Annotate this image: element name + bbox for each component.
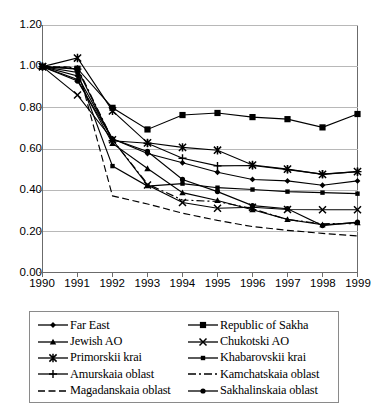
legend-item[interactable]: Sakhalinskaia oblast xyxy=(186,383,334,399)
asterisk-marker-icon xyxy=(36,351,70,365)
legend-item[interactable]: Magadanskaia oblast xyxy=(36,383,186,399)
plus-marker-icon xyxy=(36,367,70,381)
legend-label: Kamchatskaia oblast xyxy=(220,367,319,382)
legend-item[interactable]: Amurskaia oblast xyxy=(36,366,186,382)
legend-item[interactable]: Primorskii krai xyxy=(36,350,186,366)
dot-marker-icon xyxy=(186,351,220,365)
legend-label: Amurskaia oblast xyxy=(70,367,154,382)
series-far-east xyxy=(40,64,361,188)
chart-canvas xyxy=(0,0,369,300)
triangle-marker-icon xyxy=(36,335,70,349)
legend-item[interactable]: Chukotski AO xyxy=(186,333,334,349)
legend-label: Jewish AO xyxy=(70,334,122,349)
legend-item[interactable]: Far East xyxy=(36,317,186,333)
series-sakhalinskaia-oblast xyxy=(40,64,360,228)
series-magadanskaia-oblast xyxy=(43,67,358,236)
axis-ticks xyxy=(39,26,358,277)
legend-label: Far East xyxy=(70,318,109,333)
dashdot-line-icon xyxy=(186,367,220,381)
legend-label: Khabarovskii krai xyxy=(220,350,306,365)
legend-label: Sakhalinskaia oblast xyxy=(220,383,318,398)
series-chukotski-ao xyxy=(39,63,361,213)
legend-item[interactable]: Jewish AO xyxy=(36,333,186,349)
series-khabarovskii-krai xyxy=(40,64,359,195)
legend-label: Primorskii krai xyxy=(70,350,142,365)
legend-label: Magadanskaia oblast xyxy=(70,383,171,398)
legend-item[interactable]: Republic of Sakha xyxy=(186,317,334,333)
circle-marker-icon xyxy=(186,384,220,398)
series-primorskii-krai xyxy=(39,54,361,179)
series-jewish-ao xyxy=(39,63,360,227)
legend-item[interactable]: Kamchatskaia oblast xyxy=(186,366,334,382)
diamond-marker-icon xyxy=(36,318,70,332)
legend-label: Chukotski AO xyxy=(220,334,289,349)
chart-legend: Far EastRepublic of SakhaJewish AOChukot… xyxy=(29,311,339,403)
x-marker-icon xyxy=(186,335,220,349)
dashed-line-icon xyxy=(36,384,70,398)
square-marker-icon xyxy=(186,318,220,332)
data-series-layer xyxy=(39,54,362,236)
series-kamchatskaia-oblast xyxy=(43,67,358,224)
legend-label: Republic of Sakha xyxy=(220,318,308,333)
legend-item[interactable]: Khabarovskii krai xyxy=(186,350,334,366)
